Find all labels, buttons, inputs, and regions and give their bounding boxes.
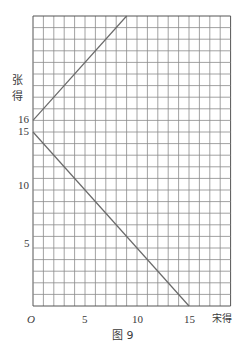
- data-lines: [33, 16, 189, 306]
- figure-caption: 图 9: [112, 326, 134, 342]
- x-axis-label: 宋得: [212, 313, 232, 325]
- y-tick-16: 16: [18, 113, 29, 125]
- y-tick-10: 10: [18, 179, 29, 191]
- y-axis-label-char-1: 张: [12, 73, 24, 89]
- y-axis-label: 张 得: [12, 73, 24, 105]
- y-tick-15: 15: [18, 125, 29, 137]
- x-tick-15: 15: [184, 313, 195, 325]
- grid-lines: [33, 16, 231, 306]
- line-falling: [33, 132, 189, 306]
- y-axis-label-char-2: 得: [12, 89, 24, 105]
- x-tick-5: 5: [82, 313, 88, 325]
- origin-label: O: [27, 313, 35, 325]
- grid-chart: [0, 0, 250, 360]
- line-rising: [33, 16, 127, 120]
- x-tick-10: 10: [132, 313, 143, 325]
- y-tick-5: 5: [24, 237, 30, 249]
